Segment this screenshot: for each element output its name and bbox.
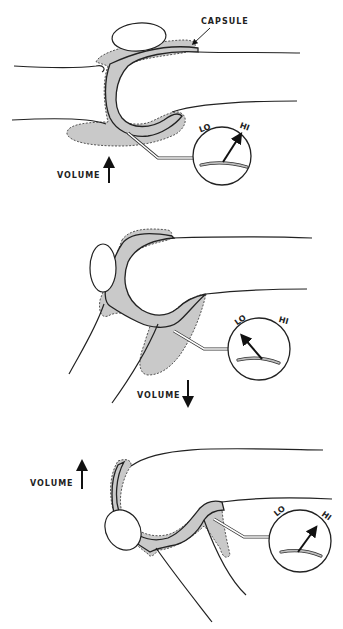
capsule-label: CAPSULE	[201, 17, 249, 26]
volume-label: VOLUME	[30, 479, 74, 488]
panel-extended: CAPSULE LO HI VOLUME	[12, 17, 300, 185]
volume-label: VOLUME	[57, 171, 101, 180]
panel-flexed-full: LO HI VOLUME	[30, 449, 333, 622]
gauge-hi-label: HI	[278, 315, 290, 326]
knee-joint-volume-diagram: CAPSULE LO HI VOLUME LO	[0, 0, 343, 629]
pressure-gauge: LO HI	[228, 313, 290, 380]
pressure-gauge: LO HI	[269, 504, 333, 572]
pressure-gauge: LO HI	[193, 121, 251, 185]
capsule-pointer	[194, 28, 210, 43]
gauge-hi-label: HI	[239, 121, 251, 133]
patella	[98, 503, 148, 556]
panel-flexed-moderate: LO HI VOLUME	[69, 229, 312, 403]
volume-label: VOLUME	[137, 391, 181, 400]
patella	[90, 244, 116, 292]
femur-outline	[172, 237, 312, 294]
femur-outline	[131, 449, 332, 502]
